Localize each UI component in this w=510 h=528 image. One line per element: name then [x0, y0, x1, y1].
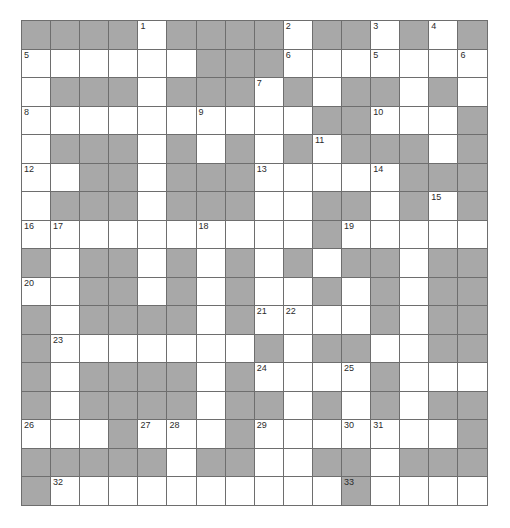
- crossword-cell[interactable]: [22, 78, 51, 107]
- crossword-cell[interactable]: [109, 334, 138, 363]
- crossword-cell[interactable]: [429, 363, 458, 392]
- crossword-cell[interactable]: [51, 363, 80, 392]
- crossword-cell[interactable]: [167, 220, 196, 249]
- crossword-cell[interactable]: 25: [342, 363, 371, 392]
- crossword-cell[interactable]: [312, 363, 341, 392]
- crossword-cell[interactable]: 22: [283, 306, 312, 335]
- crossword-cell[interactable]: 5: [371, 49, 400, 78]
- crossword-cell[interactable]: 28: [167, 420, 196, 449]
- crossword-cell[interactable]: 6: [458, 49, 487, 78]
- crossword-cell[interactable]: [51, 306, 80, 335]
- crossword-cell[interactable]: [109, 49, 138, 78]
- crossword-cell[interactable]: 14: [371, 163, 400, 192]
- crossword-cell[interactable]: [167, 477, 196, 506]
- crossword-cell[interactable]: [196, 420, 225, 449]
- crossword-cell[interactable]: [254, 477, 283, 506]
- crossword-cell[interactable]: [283, 334, 312, 363]
- crossword-cell[interactable]: [458, 78, 487, 107]
- crossword-cell[interactable]: [51, 249, 80, 278]
- crossword-cell[interactable]: 10: [371, 106, 400, 135]
- crossword-cell[interactable]: [138, 249, 167, 278]
- crossword-cell[interactable]: [400, 420, 429, 449]
- crossword-cell[interactable]: 23: [51, 334, 80, 363]
- crossword-cell[interactable]: [342, 277, 371, 306]
- crossword-cell[interactable]: [254, 135, 283, 164]
- crossword-cell[interactable]: [400, 477, 429, 506]
- crossword-cell[interactable]: 6: [283, 49, 312, 78]
- crossword-cell[interactable]: 11: [312, 135, 341, 164]
- crossword-cell[interactable]: [400, 391, 429, 420]
- crossword-cell[interactable]: [109, 477, 138, 506]
- crossword-cell[interactable]: 18: [196, 220, 225, 249]
- crossword-cell[interactable]: [138, 277, 167, 306]
- crossword-cell[interactable]: [80, 220, 109, 249]
- crossword-cell[interactable]: [80, 420, 109, 449]
- crossword-cell[interactable]: 5: [22, 49, 51, 78]
- crossword-cell[interactable]: [254, 448, 283, 477]
- crossword-cell[interactable]: [138, 163, 167, 192]
- crossword-cell[interactable]: [400, 277, 429, 306]
- crossword-cell[interactable]: 17: [51, 220, 80, 249]
- crossword-cell[interactable]: [400, 49, 429, 78]
- crossword-cell[interactable]: 12: [22, 163, 51, 192]
- crossword-cell[interactable]: [225, 220, 254, 249]
- crossword-cell[interactable]: [458, 220, 487, 249]
- crossword-cell[interactable]: [283, 163, 312, 192]
- crossword-cell[interactable]: [196, 334, 225, 363]
- crossword-cell[interactable]: 1: [138, 21, 167, 50]
- crossword-cell[interactable]: [400, 363, 429, 392]
- crossword-cell[interactable]: [342, 163, 371, 192]
- crossword-cell[interactable]: [254, 192, 283, 221]
- crossword-cell[interactable]: 30: [342, 420, 371, 449]
- crossword-cell[interactable]: [400, 334, 429, 363]
- crossword-cell[interactable]: [458, 363, 487, 392]
- crossword-cell[interactable]: [138, 106, 167, 135]
- crossword-cell[interactable]: [138, 78, 167, 107]
- crossword-cell[interactable]: [283, 220, 312, 249]
- crossword-cell[interactable]: [196, 363, 225, 392]
- crossword-cell[interactable]: 27: [138, 420, 167, 449]
- crossword-cell[interactable]: [80, 49, 109, 78]
- crossword-cell[interactable]: [312, 306, 341, 335]
- crossword-cell[interactable]: 32: [51, 477, 80, 506]
- crossword-cell[interactable]: 15: [429, 192, 458, 221]
- crossword-cell[interactable]: 31: [371, 420, 400, 449]
- crossword-cell[interactable]: [342, 391, 371, 420]
- crossword-cell[interactable]: [283, 192, 312, 221]
- crossword-cell[interactable]: [429, 420, 458, 449]
- crossword-cell[interactable]: [254, 277, 283, 306]
- crossword-cell[interactable]: [225, 106, 254, 135]
- crossword-cell[interactable]: [138, 192, 167, 221]
- crossword-cell[interactable]: [138, 334, 167, 363]
- crossword-cell[interactable]: [22, 192, 51, 221]
- crossword-cell[interactable]: [196, 477, 225, 506]
- crossword-cell[interactable]: 19: [342, 220, 371, 249]
- crossword-cell[interactable]: [167, 334, 196, 363]
- crossword-cell[interactable]: [254, 106, 283, 135]
- crossword-cell[interactable]: [109, 106, 138, 135]
- crossword-cell[interactable]: [225, 334, 254, 363]
- crossword-cell[interactable]: 16: [22, 220, 51, 249]
- crossword-cell[interactable]: [167, 49, 196, 78]
- crossword-cell[interactable]: [254, 220, 283, 249]
- crossword-cell[interactable]: [138, 477, 167, 506]
- crossword-cell[interactable]: 29: [254, 420, 283, 449]
- crossword-cell[interactable]: [312, 163, 341, 192]
- crossword-cell[interactable]: [254, 249, 283, 278]
- crossword-cell[interactable]: [167, 448, 196, 477]
- crossword-cell[interactable]: [371, 192, 400, 221]
- crossword-cell[interactable]: [400, 249, 429, 278]
- crossword-cell[interactable]: [429, 106, 458, 135]
- crossword-cell[interactable]: [283, 477, 312, 506]
- crossword-cell[interactable]: [80, 106, 109, 135]
- crossword-cell[interactable]: [429, 135, 458, 164]
- crossword-cell[interactable]: [458, 477, 487, 506]
- crossword-cell[interactable]: [400, 306, 429, 335]
- crossword-grid[interactable]: 1234565678910111213141516171819202122232…: [21, 20, 488, 506]
- crossword-cell[interactable]: [312, 249, 341, 278]
- crossword-cell[interactable]: [371, 448, 400, 477]
- crossword-cell[interactable]: 13: [254, 163, 283, 192]
- crossword-cell[interactable]: [400, 220, 429, 249]
- crossword-cell[interactable]: [283, 363, 312, 392]
- crossword-cell[interactable]: [429, 220, 458, 249]
